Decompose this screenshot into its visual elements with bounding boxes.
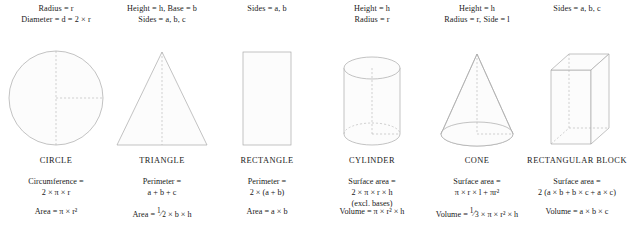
shape-name: RECTANGULAR BLOCK bbox=[524, 156, 630, 165]
shape-column-cylinder: Height = h Radius = r CYLINDER Surface a… bbox=[318, 0, 426, 230]
formula-label: Surface area = bbox=[318, 176, 426, 187]
dimension-labels: Sides = a, b, c bbox=[524, 3, 630, 14]
formula-value: Area = 1⁄2 × b × h bbox=[108, 206, 216, 221]
formula-volume: Volume = a × b × c bbox=[524, 206, 630, 217]
formula-surface-area: Surface area = 2 (a × b + b × c + a × c) bbox=[524, 176, 630, 198]
formula-area: Area = π × r² bbox=[0, 206, 112, 217]
dimension-line: Radius = r, Side = l bbox=[423, 14, 531, 25]
shape-column-circle: Radius = r Diameter = d = 2 × r CIRCLE C… bbox=[0, 0, 112, 230]
formula-volume: Volume = 1⁄3 × π × r² × h bbox=[423, 206, 531, 221]
shape-column-triangle: Height = h, Base = b Sides = a, b, c TRI… bbox=[108, 0, 216, 230]
formula-perimeter: Circumference = 2 × π × r bbox=[0, 176, 112, 198]
formula-value: Volume = 1⁄3 × π × r² × h bbox=[423, 206, 531, 221]
formula-label: Surface area = bbox=[524, 176, 630, 187]
formula-suffix: × b × h bbox=[166, 210, 192, 219]
formula-value: Volume = π × r² × h bbox=[318, 206, 426, 217]
fraction-one-half: 1⁄2 bbox=[157, 205, 166, 220]
dimension-line: Height = h bbox=[318, 3, 426, 14]
cylinder-figure bbox=[318, 46, 426, 152]
dimension-line: Sides = a, b, c bbox=[524, 3, 630, 14]
geometry-formula-sheet: Radius = r Diameter = d = 2 × r CIRCLE C… bbox=[0, 0, 630, 230]
formula-value: a + b + c bbox=[108, 187, 216, 198]
shape-name: CYLINDER bbox=[318, 156, 426, 165]
formula-label: Surface area = bbox=[423, 176, 531, 187]
formula-value: 2 × (a + b) bbox=[213, 187, 321, 198]
dimension-labels: Sides = a, b bbox=[213, 3, 321, 14]
shape-name: RECTANGLE bbox=[213, 156, 321, 165]
formula-perimeter: Perimeter = 2 × (a + b) bbox=[213, 176, 321, 198]
rectangle-figure bbox=[213, 46, 321, 152]
dimension-labels: Height = h Radius = r, Side = l bbox=[423, 3, 531, 25]
formula-surface-area: Surface area = π × r × l + πr² bbox=[423, 176, 531, 198]
formula-value: 2 (a × b + b × c + a × c) bbox=[524, 187, 630, 198]
shape-name: CIRCLE bbox=[0, 156, 112, 165]
formula-value: 2 × π × r bbox=[0, 187, 112, 198]
dimension-line: Sides = a, b, c bbox=[108, 14, 216, 25]
cone-figure bbox=[423, 46, 531, 152]
shape-column-cone: Height = h Radius = r, Side = l CONE Sur… bbox=[423, 0, 531, 230]
formula-label: Circumference = bbox=[0, 176, 112, 187]
formula-label: Perimeter = bbox=[213, 176, 321, 187]
formula-value: Volume = a × b × c bbox=[524, 206, 630, 217]
shape-column-rectangular-block: Sides = a, b, c RECTANGULAR BLOCK Surfac… bbox=[524, 0, 630, 230]
dimension-line: Radius = r bbox=[318, 14, 426, 25]
fraction-one-third: 1⁄3 bbox=[470, 205, 479, 220]
formula-perimeter: Perimeter = a + b + c bbox=[108, 176, 216, 198]
formula-value: Area = a × b bbox=[213, 206, 321, 217]
formula-prefix: Volume = bbox=[436, 210, 470, 219]
dimension-line: Sides = a, b bbox=[213, 3, 321, 14]
shape-column-rectangle: Sides = a, b RECTANGLE Perimeter = 2 × (… bbox=[213, 0, 321, 230]
formula-value: Area = π × r² bbox=[0, 206, 112, 217]
formula-area: Area = 1⁄2 × b × h bbox=[108, 206, 216, 221]
shape-name: CONE bbox=[423, 156, 531, 165]
formula-value: 2 × π × r × h bbox=[318, 187, 426, 198]
formula-surface-area: Surface area = 2 × π × r × h (excl. base… bbox=[318, 176, 426, 209]
formula-label: Perimeter = bbox=[108, 176, 216, 187]
dimension-line: Height = h bbox=[423, 3, 531, 14]
dimension-line: Radius = r bbox=[0, 3, 112, 14]
formula-suffix: × π × r² × h bbox=[479, 210, 519, 219]
shape-name: TRIANGLE bbox=[108, 156, 216, 165]
dimension-line: Height = h, Base = b bbox=[108, 3, 216, 14]
formula-volume: Volume = π × r² × h bbox=[318, 206, 426, 217]
triangle-figure bbox=[108, 46, 216, 152]
circle-figure bbox=[0, 46, 112, 152]
formula-area: Area = a × b bbox=[213, 206, 321, 217]
dimension-line: Diameter = d = 2 × r bbox=[0, 14, 112, 25]
formula-value: π × r × l + πr² bbox=[423, 187, 531, 198]
dimension-labels: Radius = r Diameter = d = 2 × r bbox=[0, 3, 112, 25]
dimension-labels: Height = h Radius = r bbox=[318, 3, 426, 25]
rectangular-block-figure bbox=[524, 46, 630, 152]
formula-prefix: Area = bbox=[132, 210, 157, 219]
dimension-labels: Height = h, Base = b Sides = a, b, c bbox=[108, 3, 216, 25]
